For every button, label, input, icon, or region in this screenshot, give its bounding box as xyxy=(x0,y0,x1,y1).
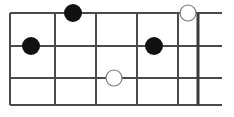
filled-note-marker[interactable] xyxy=(22,37,40,55)
filled-note-marker[interactable] xyxy=(64,4,82,22)
filled-note-marker[interactable] xyxy=(145,37,163,55)
fretboard-canvas xyxy=(0,0,234,117)
open-note-marker[interactable] xyxy=(106,70,122,86)
fretboard-diagram xyxy=(0,0,234,117)
string-lines-group xyxy=(10,13,222,105)
fret-lines-group xyxy=(10,13,198,105)
open-note-marker[interactable] xyxy=(180,5,196,21)
